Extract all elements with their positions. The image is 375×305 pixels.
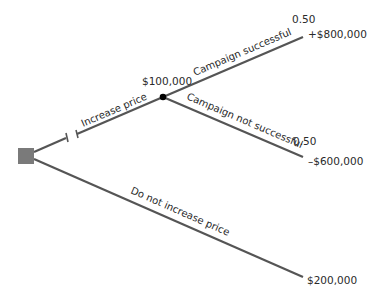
payoff-successful: +$800,000 <box>308 28 367 40</box>
prune-mark-1 <box>66 133 68 142</box>
decision-node-square <box>18 148 34 164</box>
payoff-do-not-increase: $200,000 <box>307 274 357 286</box>
probability-not-successful: 0.50 <box>293 135 316 147</box>
campaign-successful-label: Campaign successful <box>191 26 293 78</box>
probability-successful: 0.50 <box>292 13 315 25</box>
payoff-not-successful: –$600,000 <box>308 155 363 167</box>
chance-node-circle <box>160 94 167 101</box>
decision-tree-canvas: Increase price Campaign successful Campa… <box>0 0 375 305</box>
do-not-increase-branch <box>34 159 303 277</box>
do-not-increase-label: Do not increase price <box>129 185 231 238</box>
campaign-not-successful-branch <box>163 97 303 157</box>
campaign-successful-branch <box>163 37 303 97</box>
increase-price-label: Increase price <box>79 91 148 129</box>
campaign-not-successful-label: Campaign not successful <box>185 91 304 150</box>
decision-tree-diagram: Increase price Campaign successful Campa… <box>0 0 375 305</box>
expected-value-label: $100,000 <box>142 75 192 87</box>
increase-price-branch-segment-1 <box>34 138 66 152</box>
